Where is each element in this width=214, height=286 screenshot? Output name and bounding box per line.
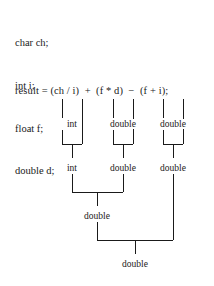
tree-node-double-4: double [158, 163, 188, 173]
type-promotion-figure: char ch; int i; float f; double d; resul… [0, 0, 214, 286]
tree-node-double-3: double [108, 163, 138, 173]
tree-node-int-2: int [65, 163, 79, 173]
tree-node-double-result: double [120, 259, 150, 269]
bracket-group-2 [113, 130, 133, 144]
promotion-tree-lines [0, 0, 214, 286]
tree-node-int-1: int [65, 119, 79, 129]
bracket-group-1 [62, 130, 82, 144]
bracket-group-3 [163, 130, 183, 144]
tree-node-double-1: double [108, 119, 138, 129]
tree-node-double-5: double [82, 211, 112, 221]
tree-node-double-2: double [158, 119, 188, 129]
